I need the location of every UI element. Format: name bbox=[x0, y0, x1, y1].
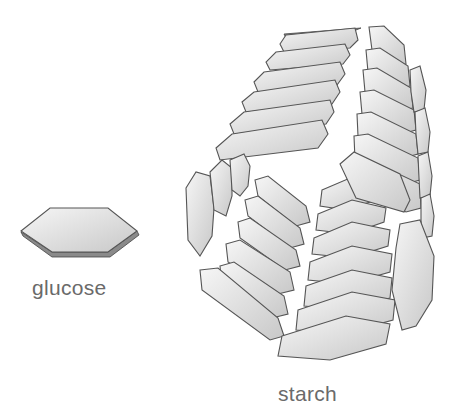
glucose-label: glucose bbox=[32, 276, 106, 300]
starch-left-upper-column bbox=[216, 28, 361, 160]
glucose-hexagon-icon bbox=[21, 208, 139, 257]
starch-helix-icon bbox=[186, 26, 434, 360]
diagram-canvas bbox=[0, 0, 455, 404]
starch-label: starch bbox=[278, 382, 337, 404]
